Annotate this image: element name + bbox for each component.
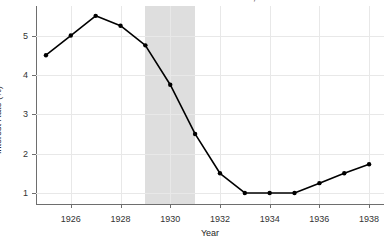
x-axis-tick-label: 1934 <box>260 214 280 224</box>
x-axis-tick-label: 1932 <box>210 214 230 224</box>
data-point <box>243 191 247 195</box>
y-axis-tick <box>32 75 36 76</box>
chart-figure: Federal Reserve Discount Rate, 1925-1938… <box>0 0 392 239</box>
data-point <box>267 191 271 195</box>
data-point <box>292 191 296 195</box>
x-axis-tick-label: 1938 <box>359 214 379 224</box>
x-axis-title: Year <box>36 228 384 238</box>
x-axis-tick <box>270 204 271 208</box>
x-axis-tick-label: 1928 <box>110 214 130 224</box>
y-axis-tick-label: 1 <box>4 188 28 198</box>
data-point <box>44 53 48 57</box>
series-polyline <box>46 16 369 193</box>
data-series-line <box>36 6 384 204</box>
data-point <box>367 162 371 166</box>
data-point <box>93 14 97 18</box>
y-axis-tick-label: 4 <box>4 70 28 80</box>
x-axis-tick <box>121 204 122 208</box>
data-point <box>168 83 172 87</box>
data-point <box>118 23 122 27</box>
y-axis-tick-label: 2 <box>4 149 28 159</box>
data-point <box>193 132 197 136</box>
data-point <box>317 181 321 185</box>
y-axis-tick <box>32 114 36 115</box>
x-axis-tick <box>319 204 320 208</box>
y-axis-tick <box>32 36 36 37</box>
plot-area: Year 1926192819301932193419361938 <box>36 6 384 204</box>
data-point <box>143 43 147 47</box>
series-markers <box>44 14 372 196</box>
x-axis-tick-label: 1926 <box>61 214 81 224</box>
x-axis-tick <box>369 204 370 208</box>
chart-title: Federal Reserve Discount Rate, 1925-1938 <box>36 0 384 2</box>
x-axis-tick-label: 1936 <box>309 214 329 224</box>
y-axis-tick-label: 3 <box>4 109 28 119</box>
data-point <box>218 171 222 175</box>
x-axis-tick-label: 1930 <box>160 214 180 224</box>
y-axis-tick-label: 5 <box>4 31 28 41</box>
y-axis-tick <box>32 193 36 194</box>
data-point <box>69 33 73 37</box>
x-axis-tick <box>71 204 72 208</box>
x-axis-line <box>36 204 384 205</box>
y-axis-tick <box>32 154 36 155</box>
x-axis-tick <box>170 204 171 208</box>
x-axis-tick <box>220 204 221 208</box>
y-axis-title: Interest Rate (%) <box>0 85 3 153</box>
data-point <box>342 171 346 175</box>
